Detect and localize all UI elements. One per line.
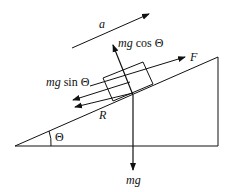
resistance-arrow bbox=[75, 93, 133, 107]
angle-label: Θ bbox=[55, 130, 64, 144]
normal-component-label: mg cos Θ bbox=[118, 36, 164, 50]
acceleration-label: a bbox=[99, 17, 105, 31]
parallel-component-label: mg sin Θ bbox=[46, 75, 90, 89]
resistance-label: R bbox=[98, 108, 107, 122]
incline-triangle bbox=[15, 57, 218, 146]
weight-label: mg bbox=[126, 173, 141, 187]
inclined-plane-diagram: Θ a mg cos Θ F mg sin Θ R mg bbox=[0, 0, 231, 192]
applied-force-arrow bbox=[90, 57, 185, 86]
angle-arc bbox=[49, 131, 51, 146]
applied-force-label: F bbox=[189, 50, 198, 64]
normal-force-arrow bbox=[113, 45, 133, 95]
